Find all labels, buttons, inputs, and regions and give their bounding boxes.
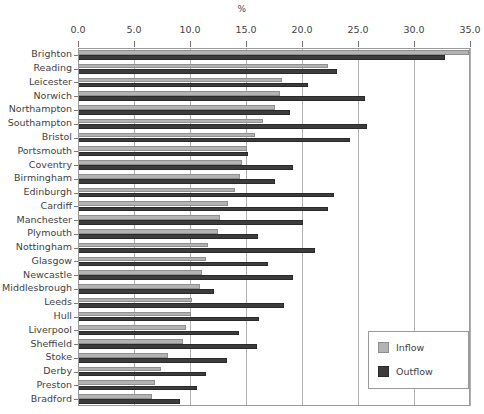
category-label-leicester: Leicester — [0, 76, 72, 87]
category-label-middlesbrough: Middlesbrough — [0, 282, 72, 293]
bar-inflow-manchester — [78, 215, 220, 220]
bar-outflow-edinburgh — [78, 193, 334, 198]
bar-outflow-stoke — [78, 358, 227, 363]
bar-inflow-sheffield — [78, 339, 183, 344]
bar-inflow-cardiff — [78, 201, 228, 206]
bar-inflow-coventry — [78, 160, 242, 165]
bar-inflow-middlesbrough — [78, 284, 200, 289]
bar-outflow-preston — [78, 386, 197, 391]
bar-inflow-reading — [78, 64, 328, 69]
gridline — [358, 48, 359, 406]
x-tick-label: 30.0 — [403, 24, 424, 35]
gridline — [246, 48, 247, 406]
inflow-swatch-icon — [378, 342, 389, 353]
bar-inflow-birmingham — [78, 174, 240, 179]
bar-inflow-norwich — [78, 91, 280, 96]
outflow-swatch-icon — [378, 366, 389, 377]
bar-outflow-manchester — [78, 220, 303, 225]
bar-inflow-preston — [78, 380, 155, 385]
x-tick-label: 35.0 — [459, 24, 480, 35]
bar-outflow-liverpool — [78, 331, 239, 336]
category-label-newcastle: Newcastle — [0, 269, 72, 280]
bar-outflow-bristol — [78, 138, 350, 143]
category-label-plymouth: Plymouth — [0, 227, 72, 238]
bar-inflow-bradford — [78, 394, 152, 399]
bar-outflow-birmingham — [78, 179, 275, 184]
bar-outflow-leeds — [78, 303, 284, 308]
bar-inflow-leicester — [78, 78, 282, 83]
bar-outflow-cardiff — [78, 207, 328, 212]
x-tick-mark — [414, 41, 415, 47]
bar-inflow-plymouth — [78, 229, 218, 234]
bar-outflow-nottingham — [78, 248, 315, 253]
bar-inflow-nottingham — [78, 243, 208, 248]
x-tick-label: 25.0 — [347, 24, 368, 35]
category-label-cardiff: Cardiff — [0, 200, 72, 211]
x-tick-mark — [134, 41, 135, 47]
category-label-norwich: Norwich — [0, 90, 72, 101]
category-label-portsmouth: Portsmouth — [0, 145, 72, 156]
legend-item-inflow[interactable]: Inflow — [378, 342, 424, 353]
category-label-northampton: Northampton — [0, 103, 72, 114]
category-label-coventry: Coventry — [0, 159, 72, 170]
bar-inflow-northampton — [78, 105, 275, 110]
bar-outflow-northampton — [78, 110, 290, 115]
bar-outflow-derby — [78, 372, 206, 377]
x-tick-mark — [302, 41, 303, 47]
gridline — [190, 48, 191, 406]
category-label-derby: Derby — [0, 365, 72, 376]
category-label-bristol: Bristol — [0, 131, 72, 142]
legend-item-outflow[interactable]: Outflow — [378, 366, 433, 377]
legend: Inflow Outflow — [368, 331, 469, 389]
x-tick-label: 10.0 — [179, 24, 200, 35]
category-label-liverpool: Liverpool — [0, 324, 72, 335]
bar-outflow-leicester — [78, 83, 308, 88]
category-label-bradford: Bradford — [0, 393, 72, 404]
category-label-southampton: Southampton — [0, 117, 72, 128]
bar-inflow-southampton — [78, 119, 263, 124]
bar-outflow-middlesbrough — [78, 289, 214, 294]
bar-outflow-reading — [78, 69, 337, 74]
bar-inflow-portsmouth — [78, 146, 247, 151]
category-label-brighton: Brighton — [0, 48, 72, 59]
bar-inflow-edinburgh — [78, 188, 235, 193]
bar-outflow-hull — [78, 317, 259, 322]
x-tick-label: 0.0 — [70, 24, 85, 35]
category-label-reading: Reading — [0, 62, 72, 73]
category-label-hull: Hull — [0, 310, 72, 321]
x-tick-mark — [78, 41, 79, 47]
bar-outflow-newcastle — [78, 275, 293, 280]
x-tick-mark — [190, 41, 191, 47]
category-label-leeds: Leeds — [0, 296, 72, 307]
category-label-preston: Preston — [0, 379, 72, 390]
bar-inflow-glasgow — [78, 257, 206, 262]
category-label-nottingham: Nottingham — [0, 241, 72, 252]
gridline — [302, 48, 303, 406]
bar-outflow-plymouth — [78, 234, 258, 239]
x-tick-mark — [246, 41, 247, 47]
legend-label-inflow: Inflow — [396, 342, 424, 353]
legend-label-outflow: Outflow — [396, 366, 433, 377]
bar-inflow-hull — [78, 312, 191, 317]
bar-inflow-liverpool — [78, 325, 186, 330]
category-label-sheffield: Sheffield — [0, 338, 72, 349]
bar-outflow-southampton — [78, 124, 367, 129]
bar-inflow-leeds — [78, 298, 192, 303]
bar-outflow-norwich — [78, 96, 365, 101]
x-tick-mark — [470, 41, 471, 47]
bar-inflow-bristol — [78, 133, 255, 138]
bar-inflow-derby — [78, 367, 161, 372]
category-label-birmingham: Birmingham — [0, 172, 72, 183]
category-label-edinburgh: Edinburgh — [0, 186, 72, 197]
gridline — [470, 48, 471, 406]
bar-inflow-brighton — [78, 50, 469, 55]
bar-outflow-bradford — [78, 399, 180, 404]
bar-inflow-stoke — [78, 353, 168, 358]
bar-inflow-newcastle — [78, 270, 202, 275]
x-tick-label: 5.0 — [126, 24, 141, 35]
bar-outflow-coventry — [78, 165, 293, 170]
x-axis-title: % — [0, 4, 484, 14]
category-label-stoke: Stoke — [0, 351, 72, 362]
bar-outflow-glasgow — [78, 262, 268, 267]
x-tick-label: 20.0 — [291, 24, 312, 35]
